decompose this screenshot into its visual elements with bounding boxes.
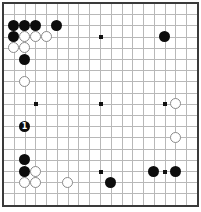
white-stone[interactable]	[8, 42, 19, 53]
black-stone[interactable]	[105, 177, 116, 188]
black-stone[interactable]	[170, 166, 181, 177]
white-stone[interactable]	[170, 132, 181, 143]
white-stone[interactable]	[41, 31, 52, 42]
star-point	[163, 170, 167, 174]
white-stone[interactable]	[19, 177, 30, 188]
black-stone[interactable]	[19, 166, 30, 177]
star-point	[99, 170, 103, 174]
black-stone[interactable]	[8, 20, 19, 31]
black-stone[interactable]	[51, 20, 62, 31]
white-stone[interactable]	[19, 42, 30, 53]
go-board[interactable]: 1	[0, 0, 201, 212]
black-stone[interactable]	[8, 31, 19, 42]
white-stone[interactable]	[30, 177, 41, 188]
white-stone[interactable]	[30, 31, 41, 42]
white-stone[interactable]	[30, 166, 41, 177]
black-stone[interactable]	[148, 166, 159, 177]
star-point	[163, 102, 167, 106]
black-stone[interactable]	[30, 20, 41, 31]
white-stone[interactable]	[19, 76, 30, 87]
black-stone[interactable]	[159, 31, 170, 42]
white-stone[interactable]	[170, 98, 181, 109]
black-stone[interactable]	[19, 154, 30, 165]
black-stone[interactable]: 1	[19, 121, 30, 132]
white-stone[interactable]	[19, 31, 30, 42]
black-stone[interactable]	[19, 54, 30, 65]
black-stone[interactable]	[19, 20, 30, 31]
star-point	[34, 102, 38, 106]
star-point	[99, 102, 103, 106]
white-stone[interactable]	[62, 177, 73, 188]
star-point	[99, 35, 103, 39]
